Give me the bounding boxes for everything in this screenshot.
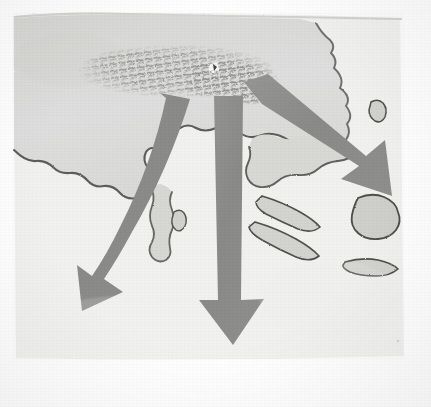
island-large-east	[352, 195, 400, 239]
page-margin-bottom	[0, 360, 431, 407]
island-north-small	[172, 210, 186, 231]
page-margin-right	[404, 0, 431, 407]
island-offshore-north	[369, 100, 386, 122]
page-margin-left	[0, 0, 13, 407]
scanned-map-figure	[0, 0, 431, 407]
map-canvas	[0, 0, 431, 407]
page-margin-top	[0, 0, 431, 12]
scan-speck	[397, 340, 399, 342]
